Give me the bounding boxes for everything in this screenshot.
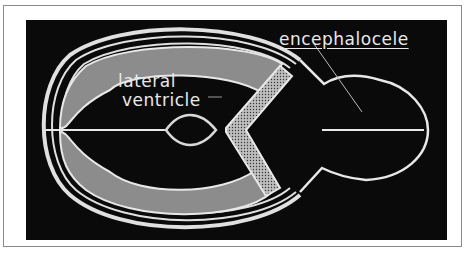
third-ventricle xyxy=(166,115,216,145)
label-encephalocele: encephalocele xyxy=(279,30,409,49)
label-ventricle: ventricle xyxy=(122,91,201,110)
label-lateral: lateral xyxy=(118,72,176,91)
encephalocele-sac xyxy=(300,60,428,192)
